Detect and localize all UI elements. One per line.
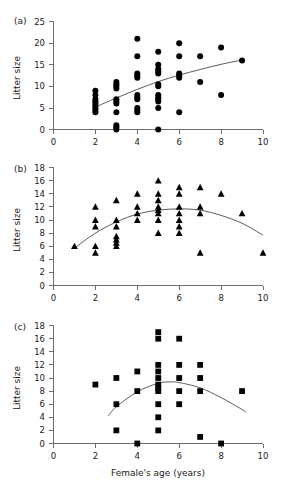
- panel-b-axes: [54, 167, 264, 286]
- data-point: [134, 75, 140, 81]
- panel-a-label-group: (a): [14, 16, 27, 26]
- panel-c-y-ticks: 0 2 4 6 8 10 12 14 16 18: [34, 321, 53, 449]
- data-point: [176, 216, 183, 222]
- panel-c-ytick-4: 4: [40, 412, 45, 422]
- panel-b-xtick-2: 2: [93, 293, 98, 303]
- panel-a-label: (a): [14, 16, 27, 26]
- data-point: [176, 336, 182, 342]
- panel-b-fit-curve: [74, 209, 263, 248]
- panel-b-ytick-14: 14: [34, 189, 45, 199]
- panel-b-ytick-10: 10: [34, 215, 45, 225]
- data-point: [239, 210, 246, 216]
- data-point: [113, 243, 120, 249]
- data-point: [218, 441, 224, 447]
- panel-a-ytick-25: 25: [34, 17, 45, 27]
- panel-b-xtick-8: 8: [218, 293, 223, 303]
- data-point: [155, 369, 161, 375]
- data-point: [134, 369, 140, 375]
- panel-b-ytick-16: 16: [34, 176, 45, 186]
- panel-a-xtick-10: 10: [258, 137, 269, 147]
- data-point: [92, 109, 98, 115]
- panel-c-y-axis-title-group: Litter size: [12, 365, 22, 410]
- data-point: [134, 53, 140, 59]
- data-point: [155, 375, 161, 381]
- data-point: [92, 243, 99, 249]
- data-point: [155, 177, 162, 183]
- data-point: [239, 57, 245, 63]
- panel-b-ytick-8: 8: [40, 228, 45, 238]
- data-point: [155, 83, 161, 89]
- panel-c-x-ticks: 0 2 4 6 8 10: [51, 444, 269, 462]
- data-point: [134, 203, 141, 209]
- data-point: [92, 249, 99, 255]
- panel-c-y-axis-title: Litter size: [12, 365, 22, 410]
- panel-c-plot: (c) Litter size 0 2: [0, 310, 281, 482]
- panel-b-xtick-4: 4: [135, 293, 140, 303]
- data-point: [113, 101, 119, 107]
- panel-b-label-group: (b): [14, 164, 27, 174]
- data-point: [197, 388, 203, 394]
- data-point: [113, 197, 120, 203]
- panel-b-ytick-4: 4: [40, 254, 45, 264]
- data-point: [155, 362, 161, 368]
- data-point: [176, 75, 182, 81]
- panel-a-y-axis-title: Litter size: [12, 55, 22, 100]
- data-point: [155, 105, 161, 111]
- data-point: [113, 109, 119, 115]
- data-point: [155, 127, 161, 133]
- panel-c-ytick-14: 14: [34, 347, 45, 357]
- data-point: [113, 428, 119, 434]
- panel-c-fit-curve: [108, 382, 246, 416]
- panel-c: (c) Litter size 0 2: [0, 310, 281, 482]
- data-point: [155, 388, 161, 394]
- data-point: [176, 223, 183, 229]
- data-point: [176, 109, 182, 115]
- panel-b-y-ticks: 0 2 4 6 8 10 12 14 16 18: [34, 163, 53, 291]
- panel-a-ytick-20: 20: [34, 38, 45, 48]
- panel-c-label: (c): [14, 322, 26, 332]
- data-point: [134, 36, 140, 42]
- panel-b-ytick-2: 2: [40, 267, 45, 277]
- data-point: [113, 86, 119, 92]
- panel-a-xtick-2: 2: [93, 137, 98, 147]
- panel-c-ytick-10: 10: [34, 373, 45, 383]
- data-point: [92, 203, 99, 209]
- panel-a-ytick-10: 10: [34, 81, 45, 91]
- panel-b-ytick-12: 12: [34, 202, 45, 212]
- panel-b-xtick-6: 6: [176, 293, 181, 303]
- panel-a-y-axis-title-group: Litter size: [12, 55, 22, 100]
- data-point: [176, 375, 182, 381]
- data-point: [134, 216, 141, 222]
- data-point: [197, 434, 203, 440]
- data-point: [176, 230, 183, 236]
- data-point: [113, 223, 120, 229]
- panel-b-xtick-0: 0: [51, 293, 56, 303]
- data-point: [134, 441, 140, 447]
- panel-b-ytick-0: 0: [40, 281, 45, 291]
- data-point: [113, 216, 120, 222]
- panel-a-ytick-5: 5: [40, 103, 45, 113]
- panel-c-ytick-18: 18: [34, 321, 45, 331]
- data-point: [92, 223, 99, 229]
- data-point: [155, 190, 162, 196]
- data-point: [218, 190, 225, 196]
- data-point: [197, 184, 204, 190]
- panel-a-xtick-0: 0: [51, 137, 56, 147]
- data-point: [197, 53, 203, 59]
- data-point: [155, 428, 161, 434]
- data-point: [176, 184, 183, 190]
- data-point: [93, 382, 99, 388]
- data-point: [134, 96, 140, 102]
- data-point: [176, 203, 183, 209]
- data-point: [155, 401, 161, 407]
- panel-b-y-axis-title: Litter size: [12, 207, 22, 252]
- data-point: [176, 388, 182, 394]
- data-point: [155, 329, 161, 335]
- data-point: [239, 388, 245, 394]
- panel-c-ytick-12: 12: [34, 360, 45, 370]
- panel-a-ytick-15: 15: [34, 60, 45, 70]
- data-point: [176, 362, 182, 368]
- panel-b-ytick-18: 18: [34, 163, 45, 173]
- data-point: [197, 249, 204, 255]
- panel-a-ytick-0: 0: [40, 125, 45, 135]
